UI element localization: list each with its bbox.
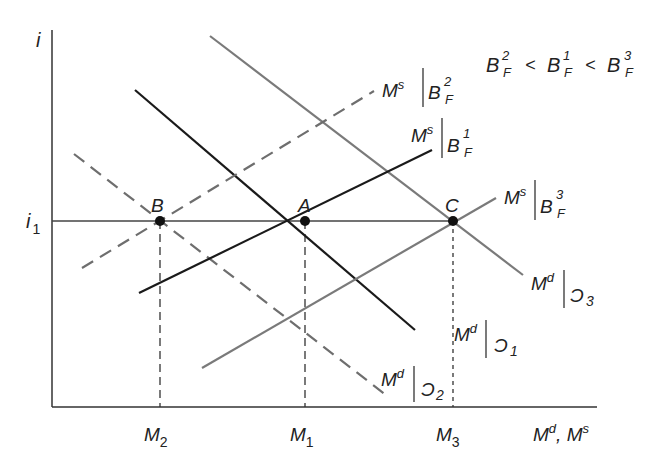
bond-ordering-label: B 2 F < B 1 F < B 3 F xyxy=(486,48,634,80)
i1-label: i1 xyxy=(26,210,40,237)
svg-text:Ɔ: Ɔ xyxy=(570,285,584,306)
svg-text:B: B xyxy=(428,82,441,103)
svg-text:Ɔ: Ɔ xyxy=(494,335,508,356)
svg-text:Md: Md xyxy=(531,270,555,294)
svg-text:B: B xyxy=(447,135,460,156)
point-b xyxy=(155,216,165,226)
ms2-curve xyxy=(82,91,374,268)
point-c-label: C xyxy=(445,195,459,216)
svg-text:F: F xyxy=(557,206,566,221)
svg-text:B: B xyxy=(607,54,620,76)
md2-curve xyxy=(74,154,386,395)
svg-text:F: F xyxy=(503,65,512,80)
svg-text:Md: Md xyxy=(454,321,478,345)
svg-text:F: F xyxy=(564,65,573,80)
svg-text:1: 1 xyxy=(463,126,470,141)
svg-text:F: F xyxy=(445,92,454,107)
x-tick-m2: M2 xyxy=(144,424,168,450)
svg-text:B: B xyxy=(540,196,553,217)
svg-text:B: B xyxy=(486,54,499,76)
svg-text:Md: Md xyxy=(381,366,405,390)
md1-curve-label: Md Ɔ 1 xyxy=(454,320,518,359)
svg-text:3: 3 xyxy=(556,187,564,202)
ms3-curve-label: Ms B 3 F xyxy=(504,180,566,221)
x-tick-m1: M1 xyxy=(290,424,314,450)
svg-text:2: 2 xyxy=(501,48,510,63)
point-a-label: A xyxy=(297,195,311,216)
md2-curve-label: Md Ɔ 2 xyxy=(381,366,444,403)
money-market-diagram: i i1 B A C M2 M1 M3 Md, Ms B 2 F < B 1 F… xyxy=(0,0,663,470)
ms2-curve-label: Ms B 2 F xyxy=(382,68,454,107)
md3-curve xyxy=(210,36,523,275)
svg-text:Ms: Ms xyxy=(411,122,434,146)
svg-text:3: 3 xyxy=(624,48,632,63)
svg-text:Ɔ: Ɔ xyxy=(421,379,435,400)
svg-text:3: 3 xyxy=(586,293,594,309)
ms1-curve-label: Ms B 1 F xyxy=(411,118,473,160)
svg-text:Ms: Ms xyxy=(382,77,405,101)
x-axis-label: Md, Ms xyxy=(533,421,589,445)
svg-text:Ms: Ms xyxy=(504,184,527,208)
svg-text:2: 2 xyxy=(435,387,444,403)
svg-text:F: F xyxy=(625,65,634,80)
svg-text:<: < xyxy=(525,55,536,75)
svg-text:1: 1 xyxy=(510,343,518,359)
svg-text:2: 2 xyxy=(443,74,452,89)
svg-text:<: < xyxy=(585,55,596,75)
point-b-label: B xyxy=(151,195,164,216)
point-a xyxy=(300,216,310,226)
y-axis-label: i xyxy=(36,29,41,51)
svg-text:F: F xyxy=(464,145,473,160)
svg-text:B: B xyxy=(547,54,560,76)
x-tick-m3: M3 xyxy=(436,424,460,450)
svg-text:1: 1 xyxy=(563,48,570,63)
md3-curve-label: Md Ɔ 3 xyxy=(531,270,594,309)
point-c xyxy=(448,216,458,226)
